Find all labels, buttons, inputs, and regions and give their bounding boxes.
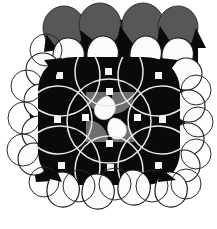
lattice-node-4 (54, 116, 61, 123)
crystal-structure-diagram: Space-filling model of a crystal lattice… (0, 0, 217, 229)
white-sphere-bottom-3 (118, 170, 150, 205)
lattice-node-8 (155, 162, 162, 169)
lattice-node-1 (56, 72, 63, 79)
white-sphere-bottom-2 (82, 174, 114, 209)
center-node-bottom (106, 140, 113, 147)
center-node-top (106, 88, 113, 95)
center-node-left (82, 114, 89, 121)
lattice-node-6 (58, 162, 65, 169)
lattice-node-2 (105, 68, 112, 75)
center-node-right (134, 114, 141, 121)
lattice-node-5 (159, 116, 166, 123)
lattice-node-3 (155, 72, 162, 79)
crystal-structure-figure: Space-filling model of a crystal lattice… (0, 0, 217, 229)
